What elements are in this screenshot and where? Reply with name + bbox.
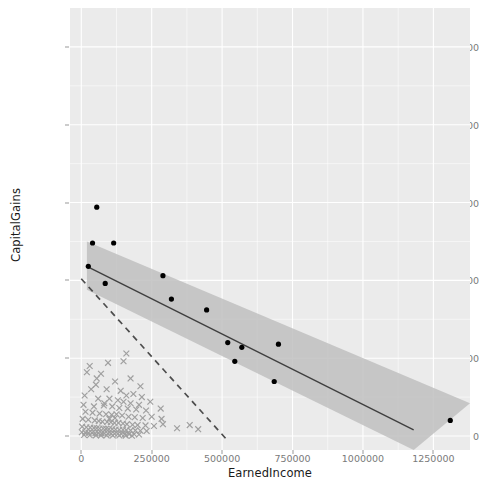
cross-marker <box>125 406 131 412</box>
data-point <box>448 418 453 423</box>
cross-marker <box>116 405 122 411</box>
data-point <box>103 281 108 286</box>
cross-marker <box>123 351 129 357</box>
cross-marker <box>132 414 138 420</box>
data-point <box>160 273 165 278</box>
y-axis-title-label: CapitalGains <box>9 188 23 262</box>
data-point <box>94 205 99 210</box>
data-point <box>272 379 277 384</box>
x-tick-label: 500000 <box>204 453 240 464</box>
y-tick-mark <box>65 124 69 125</box>
y-tick-mark <box>65 358 69 359</box>
cross-marker <box>174 425 180 431</box>
cross-marker <box>95 396 101 402</box>
data-point <box>239 345 244 350</box>
data-point <box>86 264 91 269</box>
cross-marker <box>128 376 134 382</box>
cross-marker <box>97 411 103 417</box>
data-point <box>111 240 116 245</box>
cross-marker <box>159 416 165 422</box>
cross-marker <box>85 417 91 423</box>
plot-canvas <box>70 8 470 450</box>
cross-marker <box>143 423 149 429</box>
plot-panel <box>70 8 470 450</box>
y-tick-mark <box>65 202 69 203</box>
cross-marker <box>119 413 125 419</box>
cross-marker <box>82 393 88 399</box>
x-tick-label: 750000 <box>274 453 310 464</box>
cross-marker <box>140 415 146 421</box>
y-tick-mark <box>65 280 69 281</box>
x-tick-label: 1000000 <box>342 453 384 464</box>
data-point <box>90 240 95 245</box>
regression-line <box>87 266 414 429</box>
cross-marker <box>128 400 134 406</box>
cross-marker <box>93 382 99 388</box>
cross-marker <box>123 393 129 399</box>
cross-marker <box>138 383 144 389</box>
y-axis-title: CapitalGains <box>6 0 26 450</box>
scatter-plot-figure: CapitalGains 025000050000075000010000001… <box>0 0 479 498</box>
cross-marker <box>104 386 110 392</box>
cross-marker <box>144 428 150 434</box>
cross-marker <box>187 422 193 428</box>
data-point <box>232 359 237 364</box>
cross-marker <box>160 421 166 427</box>
data-point <box>276 342 281 347</box>
cross-marker <box>109 404 115 410</box>
cross-marker <box>105 360 111 366</box>
cross-marker <box>118 388 124 394</box>
cross-marker <box>115 397 121 403</box>
cross-marker <box>84 369 90 375</box>
cross-marker <box>158 406 164 412</box>
x-tick-mark <box>362 450 363 454</box>
cross-marker <box>121 358 127 364</box>
x-tick-label: 1250000 <box>412 453 454 464</box>
x-axis-title: EarnedIncome <box>70 466 470 480</box>
x-tick-mark <box>81 450 82 454</box>
x-tick-mark <box>222 450 223 454</box>
x-tick-mark <box>151 450 152 454</box>
cross-marker <box>90 410 96 416</box>
cross-marker <box>112 379 118 385</box>
data-point <box>169 296 174 301</box>
cross-marker <box>83 409 89 415</box>
cross-marker <box>126 414 132 420</box>
x-tick-label: 0 <box>78 453 84 464</box>
y-tick-mark <box>65 46 69 47</box>
cross-marker <box>135 422 141 428</box>
data-point <box>225 340 230 345</box>
cross-marker <box>80 416 86 422</box>
x-tick-mark <box>292 450 293 454</box>
cross-marker <box>147 399 153 405</box>
y-tick-mark <box>65 435 69 436</box>
cross-marker <box>91 404 97 410</box>
cross-marker <box>124 421 130 427</box>
cross-marker <box>195 426 201 432</box>
background-point-group <box>79 351 201 439</box>
cross-marker <box>103 411 109 417</box>
cross-marker <box>130 391 136 397</box>
data-point <box>204 307 209 312</box>
cross-marker <box>87 363 93 369</box>
x-tick-label: 250000 <box>134 453 170 464</box>
cross-marker <box>143 408 149 414</box>
cross-marker <box>98 371 104 377</box>
x-tick-mark <box>433 450 434 454</box>
cross-marker <box>121 399 127 405</box>
